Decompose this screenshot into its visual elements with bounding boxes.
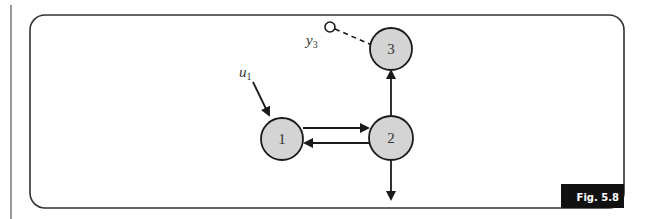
svg-text:2: 2 bbox=[387, 130, 395, 146]
figure-frame bbox=[30, 15, 624, 208]
output-port-icon bbox=[325, 22, 335, 32]
node-2: 2 bbox=[369, 116, 413, 160]
compartment-diagram: Fig. 5.8 u1 y3 1 2 3 bbox=[0, 0, 649, 219]
svg-text:1: 1 bbox=[278, 131, 286, 147]
output-label-y3: y3 bbox=[304, 32, 318, 50]
figure-caption: Fig. 5.8 bbox=[561, 184, 624, 208]
input-arrow-u1 bbox=[253, 82, 269, 115]
input-label-u1: u1 bbox=[239, 64, 252, 82]
caption-text: Fig. 5.8 bbox=[577, 192, 619, 203]
svg-text:3: 3 bbox=[387, 41, 395, 57]
node-3: 3 bbox=[370, 28, 412, 70]
node-1: 1 bbox=[261, 118, 303, 160]
output-dashed-y3 bbox=[335, 29, 372, 45]
